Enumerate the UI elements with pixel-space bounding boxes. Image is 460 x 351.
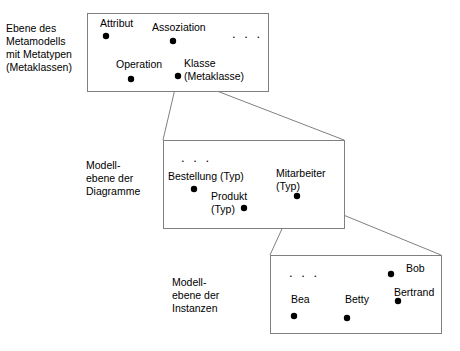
ellipsis-diagram-model: . . . xyxy=(181,150,212,165)
side-label-line: Ebene des xyxy=(6,22,56,34)
node-label: Bertrand xyxy=(394,286,434,298)
node-dot[interactable] xyxy=(388,271,394,277)
node-label-line: (Typ) xyxy=(211,203,235,215)
node-dot[interactable] xyxy=(103,33,109,39)
diagram-canvas: Ebene desMetamodellsmit Metatypen(Metakl… xyxy=(0,0,460,351)
node-label-line: Bertrand xyxy=(394,286,434,298)
node-label: Betty xyxy=(345,293,370,305)
node-label: Operation xyxy=(116,58,162,70)
node-label-line: (Typ) xyxy=(276,180,300,192)
node-label-line: Attribut xyxy=(100,17,133,29)
ellipsis-instance-model: . . . xyxy=(289,265,320,280)
node-label: Bestellung (Typ) xyxy=(168,170,244,182)
node-label-line: Bestellung (Typ) xyxy=(168,170,244,182)
side-label-line: ebene der xyxy=(86,172,134,184)
side-label-line: ebene der xyxy=(172,289,220,301)
node-dot[interactable] xyxy=(241,205,247,211)
node-dot[interactable] xyxy=(294,193,300,199)
side-label-diagram-model: Modell-ebene derDiagramme xyxy=(86,159,140,197)
node-label-line: Operation xyxy=(116,58,162,70)
side-label-line: Modell- xyxy=(86,159,121,171)
metamodel-layers-diagram: Ebene desMetamodellsmit Metatypen(Metakl… xyxy=(0,0,460,351)
side-label-line: mit Metatypen xyxy=(6,48,72,60)
node-label-line: Bea xyxy=(291,293,310,305)
node-label-line: (Metaklasse) xyxy=(184,70,244,82)
side-label-metamodel: Ebene desMetamodellsmit Metatypen(Metakl… xyxy=(6,22,72,73)
node-dot[interactable] xyxy=(291,313,297,319)
node-label-line: Betty xyxy=(345,293,370,305)
node-label: Bob xyxy=(406,262,425,274)
node-dot[interactable] xyxy=(175,73,181,79)
node-dot[interactable] xyxy=(191,186,197,192)
node-label-line: Produkt xyxy=(211,190,247,202)
side-label-line: Diagramme xyxy=(86,185,140,197)
node-label-line: Klasse xyxy=(184,57,216,69)
side-label-line: Modell- xyxy=(172,276,207,288)
side-label-line: Metamodells xyxy=(6,35,66,47)
side-label-line: Instanzen xyxy=(172,302,218,314)
node-label-line: Assoziation xyxy=(152,21,206,33)
node-label-line: Mitarbeiter xyxy=(276,167,326,179)
node-dot[interactable] xyxy=(344,315,350,321)
node-label: Bea xyxy=(291,293,310,305)
side-label-instance-model: Modell-ebene derInstanzen xyxy=(172,276,220,314)
node-label: Attribut xyxy=(100,17,133,29)
node-dot[interactable] xyxy=(170,38,176,44)
node-label: Assoziation xyxy=(152,21,206,33)
node-dot[interactable] xyxy=(395,298,401,304)
node-dot[interactable] xyxy=(128,76,134,82)
ellipsis-metamodel: . . . xyxy=(232,26,263,41)
node-label-line: Bob xyxy=(406,262,425,274)
side-label-line: (Metaklassen) xyxy=(6,61,72,73)
